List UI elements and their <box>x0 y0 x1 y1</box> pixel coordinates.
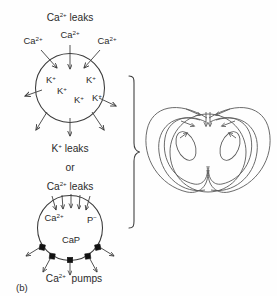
pump-marker-1 <box>39 244 45 250</box>
interior-label-cap: CaP <box>62 234 80 245</box>
figure-panel-b: Ca2+ leaks Ca2+ Ca2+ Ca2+ K+ K <box>0 0 277 296</box>
pump-marker-3 <box>67 257 72 262</box>
or-connector-label: or <box>65 162 75 173</box>
pump-marker-2 <box>49 253 55 259</box>
pump-marker-4 <box>85 253 91 259</box>
figure-svg: Ca2+ leaks Ca2+ Ca2+ Ca2+ K+ K <box>0 0 277 296</box>
canvas-background <box>0 0 277 296</box>
bottom-cell-bottom-label: Ca2+ pumps <box>46 272 102 284</box>
bottom-cell-top-label: Ca2+ leaks <box>47 180 94 192</box>
top-cell-top-label: Ca2+ leaks <box>47 11 94 23</box>
top-cell-bottom-label: K+ leaks <box>51 142 88 154</box>
pump-marker-5 <box>95 244 101 250</box>
panel-tag: (b) <box>16 282 28 293</box>
